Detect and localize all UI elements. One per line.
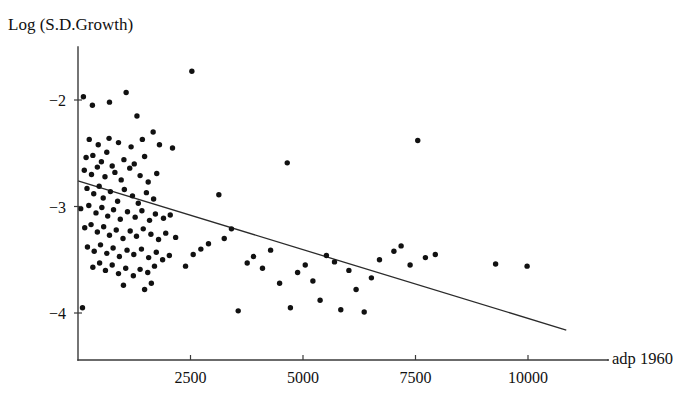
data-point xyxy=(191,252,196,257)
data-point xyxy=(120,236,125,241)
data-point xyxy=(493,261,498,266)
data-point xyxy=(130,193,135,198)
data-points-group xyxy=(78,69,530,315)
data-point xyxy=(285,160,290,165)
data-point xyxy=(137,267,142,272)
data-point xyxy=(189,69,194,74)
data-point xyxy=(216,192,221,197)
data-point xyxy=(377,257,382,262)
data-point xyxy=(132,161,137,166)
y-tick-label: −2 xyxy=(49,92,66,109)
data-point xyxy=(146,179,151,184)
data-point xyxy=(153,211,158,216)
data-point xyxy=(91,191,96,196)
data-point xyxy=(524,263,529,268)
data-point xyxy=(110,262,115,267)
data-point xyxy=(141,226,146,231)
data-point xyxy=(152,263,157,268)
data-point xyxy=(146,255,151,260)
y-tick-label: −3 xyxy=(49,199,66,216)
x-tick-label: 7500 xyxy=(400,369,432,386)
data-point xyxy=(84,186,89,191)
data-point xyxy=(80,305,85,310)
data-point xyxy=(115,198,120,203)
data-point xyxy=(99,159,104,164)
data-point xyxy=(251,254,256,259)
data-point xyxy=(82,168,87,173)
data-point xyxy=(108,189,113,194)
data-point xyxy=(122,187,127,192)
data-point xyxy=(95,229,100,234)
data-point xyxy=(128,228,133,233)
data-point xyxy=(117,254,122,259)
data-point xyxy=(134,234,139,239)
data-point xyxy=(433,252,438,257)
data-point xyxy=(353,287,358,292)
data-point xyxy=(112,170,117,175)
data-point xyxy=(346,268,351,273)
data-point xyxy=(154,250,159,255)
data-point xyxy=(92,249,97,254)
data-point xyxy=(362,309,367,314)
data-point xyxy=(260,266,265,271)
data-point xyxy=(151,196,156,201)
data-point xyxy=(105,213,110,218)
data-point xyxy=(98,242,103,247)
data-point xyxy=(119,177,124,182)
data-point xyxy=(149,280,154,285)
data-point xyxy=(134,113,139,118)
y-tick-labels: −2−3−4 xyxy=(49,92,66,322)
data-point xyxy=(168,212,173,217)
data-point xyxy=(222,236,227,241)
data-point xyxy=(96,184,101,189)
x-tick-labels: 25005000750010000 xyxy=(175,369,549,386)
y-tick-label: −4 xyxy=(49,305,66,322)
data-point xyxy=(288,305,293,310)
data-point xyxy=(89,172,94,177)
data-point xyxy=(229,226,234,231)
data-point xyxy=(317,298,322,303)
data-point xyxy=(198,246,203,251)
data-point xyxy=(95,164,100,169)
data-point xyxy=(107,233,112,238)
data-point xyxy=(161,216,166,221)
data-point xyxy=(110,245,115,250)
data-point xyxy=(398,243,403,248)
data-point xyxy=(391,249,396,254)
data-point xyxy=(131,273,136,278)
data-point xyxy=(97,260,102,265)
data-point xyxy=(183,263,188,268)
x-tick-label: 5000 xyxy=(287,369,319,386)
data-point xyxy=(277,280,282,285)
x-tick-label: 2500 xyxy=(175,369,207,386)
data-point xyxy=(136,201,141,206)
data-point xyxy=(142,154,147,159)
x-axis-title: adp 1960 xyxy=(612,349,673,368)
data-point xyxy=(140,137,145,142)
data-point xyxy=(93,210,98,215)
data-point xyxy=(407,262,412,267)
data-point xyxy=(116,140,121,145)
data-point xyxy=(156,237,161,242)
data-point xyxy=(85,244,90,249)
data-point xyxy=(121,283,126,288)
data-point xyxy=(163,230,168,235)
data-point xyxy=(154,171,159,176)
data-point xyxy=(121,157,126,162)
data-point xyxy=(132,214,137,219)
data-point xyxy=(145,270,150,275)
data-point xyxy=(127,165,132,170)
data-point xyxy=(101,195,106,200)
data-point xyxy=(324,253,329,258)
data-point xyxy=(103,268,108,273)
data-point xyxy=(167,253,172,258)
data-point xyxy=(124,247,129,252)
data-point xyxy=(82,225,87,230)
data-point xyxy=(268,247,273,252)
data-point xyxy=(144,190,149,195)
data-point xyxy=(116,271,121,276)
data-point xyxy=(90,265,95,270)
data-point xyxy=(88,222,93,227)
data-point xyxy=(107,99,112,104)
data-point xyxy=(423,255,428,260)
